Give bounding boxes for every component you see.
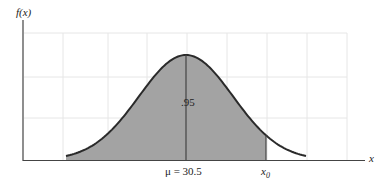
mean-label: μ = 30.5 xyxy=(165,165,202,177)
x0-label-sub: 0 xyxy=(266,171,270,180)
normal-curve-figure xyxy=(0,0,392,182)
x0-label: x0 xyxy=(261,165,270,180)
y-axis-label: f(x) xyxy=(16,6,31,18)
x-axis-label: x xyxy=(369,152,374,164)
area-label: .95 xyxy=(181,96,195,108)
